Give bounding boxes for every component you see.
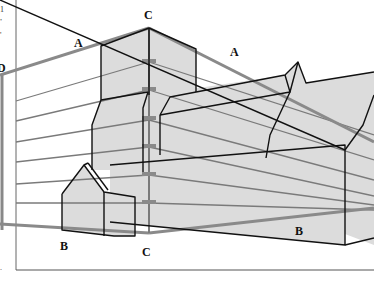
margin-text-3: ' [0,32,1,40]
margin-text-4: . [0,264,2,272]
label-a-right: A [230,46,239,58]
label-a-left: A [74,37,83,49]
label-b-right: B [295,225,303,237]
perspective-drawing [0,0,374,286]
label-c-top: C [144,9,153,21]
label-b-left: B [60,240,68,252]
label-d: D [0,62,6,74]
perspective-diagram: A A C C B B D 1 , ' . [0,0,374,286]
margin-text-2: , [0,14,2,22]
label-c-bottom: C [142,246,151,258]
